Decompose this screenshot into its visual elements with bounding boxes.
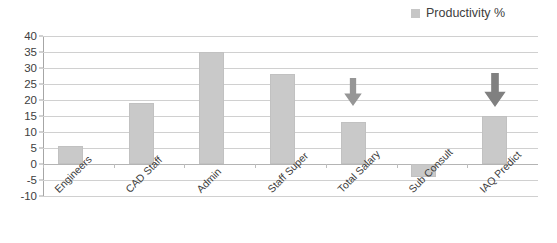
x-axis-tick-mark	[467, 164, 468, 168]
y-axis-tick-label: 15	[3, 110, 37, 122]
legend-swatch-productivity	[411, 9, 420, 18]
y-axis-tick-label: 30	[3, 62, 37, 74]
y-axis-tick-mark	[39, 36, 43, 37]
y-axis-tick-mark	[39, 100, 43, 101]
y-axis-tick-label: 35	[3, 46, 37, 58]
x-axis-tick-mark	[397, 164, 398, 168]
y-axis-tick-label: 20	[3, 94, 37, 106]
y-axis-tick-mark	[39, 148, 43, 149]
down-arrow-icon	[484, 73, 506, 107]
y-axis-tick-label: 5	[3, 142, 37, 154]
y-axis-tick-label: 0	[3, 158, 37, 170]
x-axis-tick-mark	[326, 164, 327, 168]
y-axis-tick-mark	[39, 196, 43, 197]
plot-area: 4035302520151050-5-10EngineersCAD StaffA…	[43, 36, 538, 196]
y-axis-tick-mark	[39, 68, 43, 69]
bar	[270, 74, 295, 164]
x-axis-tick-mark	[184, 164, 185, 168]
bar	[129, 103, 154, 164]
down-arrow-icon	[344, 78, 362, 106]
bar	[199, 52, 224, 164]
gridline	[43, 52, 538, 53]
x-axis-tick-mark	[255, 164, 256, 168]
bar	[482, 116, 507, 164]
y-axis-tick-label: 40	[3, 30, 37, 42]
y-axis-tick-label: -10	[3, 190, 37, 202]
gridline	[43, 180, 538, 181]
x-axis-tick-mark	[114, 164, 115, 168]
y-axis-tick-mark	[39, 180, 43, 181]
chart-legend: Productivity %	[411, 5, 505, 21]
gridline	[43, 36, 538, 37]
y-axis-tick-mark	[39, 52, 43, 53]
y-axis-tick-label: 10	[3, 126, 37, 138]
gridline	[43, 68, 538, 69]
x-axis-tick-mark	[43, 164, 44, 168]
legend-label-productivity: Productivity %	[426, 7, 505, 20]
y-axis-tick-mark	[39, 84, 43, 85]
gridline	[43, 196, 538, 197]
y-axis-tick-mark	[39, 132, 43, 133]
bar-chart: Productivity % 4035302520151050-5-10Engi…	[0, 0, 557, 243]
y-axis-tick-label: 25	[3, 78, 37, 90]
y-axis-tick-label: -5	[3, 174, 37, 186]
y-axis-tick-mark	[39, 116, 43, 117]
